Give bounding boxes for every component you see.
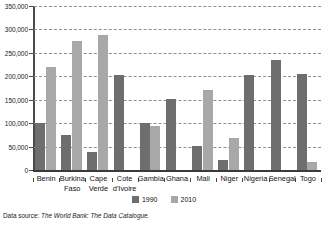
x-axis-label: Niger [216,174,242,184]
x-axis-label: Ghana [164,174,190,184]
bar [150,126,160,171]
x-axis-label: Gambia [138,174,164,184]
bar-group [112,6,138,170]
x-axis-label: Nigeria [242,174,268,184]
bar [98,35,108,170]
bar [229,138,239,171]
bar [297,74,307,170]
x-axis-line [33,170,321,172]
bar [114,75,124,170]
bar [244,75,254,171]
bar [271,60,281,170]
x-axis-label: Burkina Faso [59,174,85,193]
source-note: Data source: The World Bank: The Data Ca… [3,212,149,219]
bar-group [216,6,242,170]
legend-label: 1990 [142,196,158,203]
y-tick-label: 100,000 [5,120,28,127]
bar [140,123,150,171]
bar-group [85,6,111,170]
bar [307,162,317,170]
x-axis-label: Cape Verde [85,174,111,193]
bar-group [59,6,85,170]
bar-group [242,6,268,170]
x-axis-label: Senegal [269,174,295,184]
legend-swatch-icon [171,196,178,203]
bar [35,123,45,170]
bar-group [295,6,321,170]
chart-legend: 19902010 [0,196,328,203]
legend-item: 1990 [132,196,158,203]
legend-label: 2010 [181,196,197,203]
bar [192,146,202,171]
bar [203,90,213,171]
bar-group [164,6,190,170]
y-tick-label: 250,000 [5,49,28,56]
bar [218,160,228,170]
x-tick-mark [321,178,322,182]
legend-swatch-icon [132,196,139,203]
bar-group [33,6,59,170]
y-tick-label: 200,000 [5,73,28,80]
y-tick-label: 300,000 [5,26,28,33]
x-axis-label: Togo [295,174,321,184]
y-tick-label: 0 [24,167,28,174]
x-axis-label: Cote d'Ivoire [112,174,138,193]
bar [61,135,71,170]
y-tick-label: 150,000 [5,96,28,103]
legend-item: 2010 [171,196,197,203]
bar-group [269,6,295,170]
x-axis-label: Benin [33,174,59,184]
x-axis-label: Mali [190,174,216,184]
y-tick-mark [29,170,33,171]
bar [72,41,82,170]
bar [87,152,97,171]
bar [166,99,176,171]
y-tick-label: 350,000 [5,3,28,10]
plot-area: 050,000100,000150,000200,000250,000300,0… [33,6,321,172]
source-label: Data source: [3,212,41,219]
source-value: The World Bank: The Data Catalogue. [41,212,149,219]
bar [46,67,56,170]
y-tick-label: 50,000 [8,143,28,150]
bar-group [190,6,216,170]
bars-layer [33,6,321,170]
bar-chart-figure: 050,000100,000150,000200,000250,000300,0… [0,0,328,226]
bar-group [138,6,164,170]
